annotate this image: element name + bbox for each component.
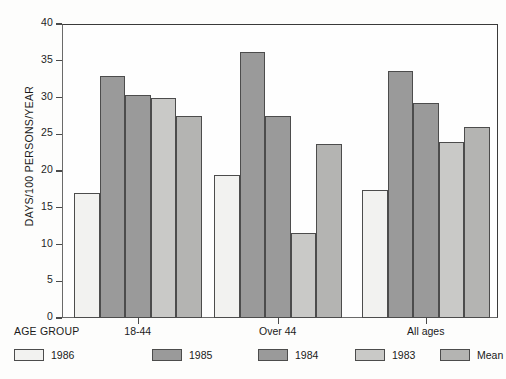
- legend-item[interactable]: Mean: [440, 349, 503, 361]
- legend-swatch: [258, 349, 288, 361]
- y-tick-label: 40: [41, 16, 53, 28]
- x-axis: AGE GROUP 18-44Over 44All ages: [0, 318, 506, 340]
- y-axis-title: DAYS/100 PERSONS/YEAR: [23, 31, 35, 281]
- x-tick-mark: [426, 318, 427, 324]
- bar: [464, 127, 490, 318]
- legend-label: 1986: [51, 349, 74, 361]
- bar: [439, 142, 465, 318]
- legend-swatch: [355, 349, 385, 361]
- x-tick-mark: [138, 318, 139, 324]
- legend-item[interactable]: 1986: [14, 349, 74, 361]
- bar: [291, 233, 317, 318]
- legend-label: Mean: [477, 349, 503, 361]
- x-axis-caption: AGE GROUP: [14, 325, 79, 337]
- bar: [74, 193, 100, 318]
- legend-label: 1984: [295, 349, 318, 361]
- y-tick-label: 5: [47, 273, 53, 285]
- legend-item[interactable]: 1984: [258, 349, 318, 361]
- legend-label: 1983: [392, 349, 415, 361]
- bar: [125, 95, 151, 318]
- bar: [100, 76, 126, 318]
- bar-group: [214, 24, 342, 318]
- y-tick-label: 25: [41, 126, 53, 138]
- x-tick-label: Over 44: [259, 325, 296, 337]
- bar-group: [362, 24, 490, 318]
- bar: [214, 175, 240, 318]
- legend-item[interactable]: 1983: [355, 349, 415, 361]
- bar: [176, 116, 202, 318]
- legend-swatch: [440, 349, 470, 361]
- bar-group: [74, 24, 202, 318]
- bar: [316, 144, 342, 318]
- bar: [413, 103, 439, 318]
- legend-swatch: [152, 349, 182, 361]
- bar: [265, 116, 291, 318]
- x-tick-label: All ages: [407, 325, 444, 337]
- y-tick-label: 20: [41, 163, 53, 175]
- y-tick-label: 10: [41, 237, 53, 249]
- bar: [151, 98, 177, 318]
- legend-label: 1985: [189, 349, 212, 361]
- legend-swatch: [14, 349, 44, 361]
- bar-chart: 0510152025303540 DAYS/100 PERSONS/YEAR A…: [0, 0, 506, 379]
- x-tick-mark: [278, 318, 279, 324]
- bar: [362, 190, 388, 318]
- legend-item[interactable]: 1985: [152, 349, 212, 361]
- chart-legend: 1986198519841983Mean: [0, 349, 506, 373]
- x-tick-label: 18-44: [124, 325, 151, 337]
- y-axis: 0510152025303540 DAYS/100 PERSONS/YEAR: [0, 0, 62, 318]
- y-tick-label: 35: [41, 53, 53, 65]
- bar: [240, 52, 266, 318]
- y-tick-label: 30: [41, 90, 53, 102]
- y-tick-label: 15: [41, 200, 53, 212]
- bar: [388, 71, 414, 318]
- bar-series-layer: [62, 24, 498, 318]
